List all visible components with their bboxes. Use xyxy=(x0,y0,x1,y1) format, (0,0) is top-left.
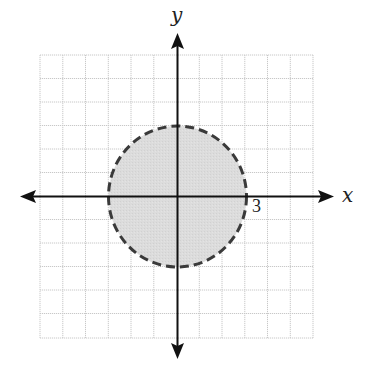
y-axis-label: y xyxy=(170,3,183,27)
tick-label-3: 3 xyxy=(252,196,261,216)
x-axis-label: x xyxy=(342,183,353,207)
coordinate-graph: x y 3 xyxy=(0,0,369,370)
